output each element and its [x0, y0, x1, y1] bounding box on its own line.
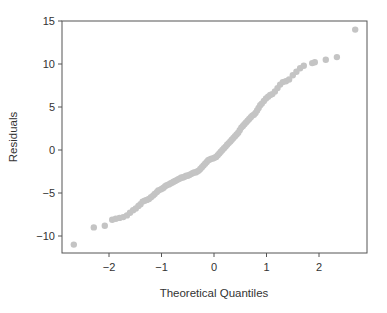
data-point [301, 62, 307, 68]
data-point [91, 224, 97, 230]
y-axis-label: Residuals [7, 112, 19, 163]
y-axis-ticks: −10−5051015 [36, 15, 62, 242]
x-tick-label: 0 [211, 261, 217, 273]
x-tick-label: 2 [316, 261, 322, 273]
qq-plot: −2−1012 −10−5051015 Theoretical Quantile… [0, 0, 387, 313]
data-point [334, 54, 340, 60]
x-tick-label: −1 [155, 261, 168, 273]
x-tick-label: −2 [103, 261, 116, 273]
y-tick-label: 15 [43, 15, 55, 27]
data-point [323, 57, 329, 63]
x-axis-ticks: −2−1012 [103, 253, 322, 273]
y-tick-label: −10 [36, 230, 55, 242]
data-points [71, 26, 359, 247]
y-tick-label: 10 [43, 58, 55, 70]
x-axis-label: Theoretical Quantiles [160, 287, 269, 299]
y-tick-label: 0 [49, 144, 55, 156]
plot-frame [62, 21, 367, 253]
data-point [352, 26, 358, 32]
data-point [312, 59, 318, 65]
data-point [71, 241, 77, 247]
y-tick-label: −5 [42, 187, 55, 199]
y-tick-label: 5 [49, 101, 55, 113]
data-point [102, 223, 108, 229]
x-tick-label: 1 [263, 261, 269, 273]
